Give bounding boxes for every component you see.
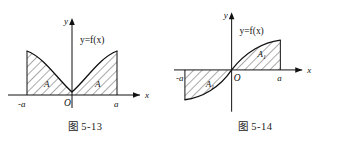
x-axis-label: x — [144, 90, 149, 100]
x-axis-arrow — [133, 92, 140, 98]
tick-label-left: -a — [176, 73, 184, 83]
tick-label-left: -a — [18, 99, 26, 109]
area-label-left: A — [43, 79, 50, 89]
tick-label-right: a — [277, 73, 282, 83]
figure-5-14-canvas: x y O -a a y=f(x) A1 A1 — [170, 0, 340, 118]
tick-label-right: a — [114, 99, 119, 109]
figure-pair: x y O -a a y=f(x) A A 图 5-13 — [0, 0, 341, 147]
origin-label: O — [64, 98, 71, 108]
origin-label: O — [234, 73, 241, 83]
x-axis-arrow — [295, 67, 302, 73]
figure-caption-5-14: 图 5-14 — [170, 118, 340, 133]
area-label-right-subscript: 1 — [263, 54, 266, 60]
function-label: y=f(x) — [240, 26, 264, 37]
y-axis-label: y — [223, 10, 228, 20]
area-label-right: A — [94, 79, 101, 89]
x-axis-label: x — [306, 65, 311, 75]
area-label-left-subscript: 1 — [211, 84, 214, 90]
figure-5-13-canvas: x y O -a a y=f(x) A A — [0, 0, 170, 118]
figure-5-14: x y O -a a y=f(x) A1 A1 图 5-14 — [170, 0, 340, 147]
function-label: y=f(x) — [80, 35, 104, 46]
figure-caption-5-13: 图 5-13 — [0, 118, 170, 133]
figure-5-13: x y O -a a y=f(x) A A 图 5-13 — [0, 0, 170, 147]
y-axis-arrow — [69, 18, 75, 25]
y-axis-arrow — [229, 12, 235, 19]
y-axis-label: y — [63, 16, 68, 26]
